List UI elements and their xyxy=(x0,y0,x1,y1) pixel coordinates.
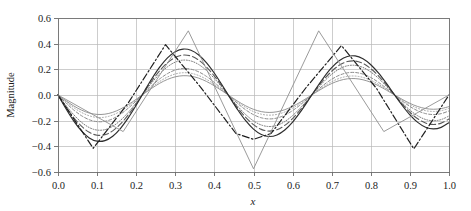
line-chart: 0.00.10.20.30.40.50.60.70.80.91.0 0.60.4… xyxy=(0,0,471,211)
x-tick-label: 0.5 xyxy=(248,180,261,191)
x-tick-label: 0.1 xyxy=(91,180,104,191)
y-tick-label: −0.2 xyxy=(32,116,51,127)
x-tick-label: 0.2 xyxy=(130,180,143,191)
x-tick-label: 0.9 xyxy=(404,180,417,191)
y-tick-label: −0.6 xyxy=(32,167,51,178)
y-tick-label: 0.4 xyxy=(38,39,52,50)
x-tick-label: 0.0 xyxy=(52,180,65,191)
y-tick-label: 0.0 xyxy=(38,90,51,101)
y-axis-title: Magnitude xyxy=(5,72,16,118)
x-tick-label: 0.4 xyxy=(208,180,222,191)
y-tick-label: −0.4 xyxy=(32,141,52,152)
x-axis-title: x xyxy=(250,195,256,207)
figure-container: 0.00.10.20.30.40.50.60.70.80.91.0 0.60.4… xyxy=(0,0,471,211)
x-tick-label: 0.6 xyxy=(287,180,300,191)
x-tick-label: 0.8 xyxy=(365,180,378,191)
x-tick-label: 1.0 xyxy=(443,180,456,191)
y-tick-label: 0.6 xyxy=(38,13,51,24)
y-tick-label: 0.2 xyxy=(38,64,51,75)
x-tick-label: 0.7 xyxy=(326,180,339,191)
x-tick-label: 0.3 xyxy=(169,180,182,191)
